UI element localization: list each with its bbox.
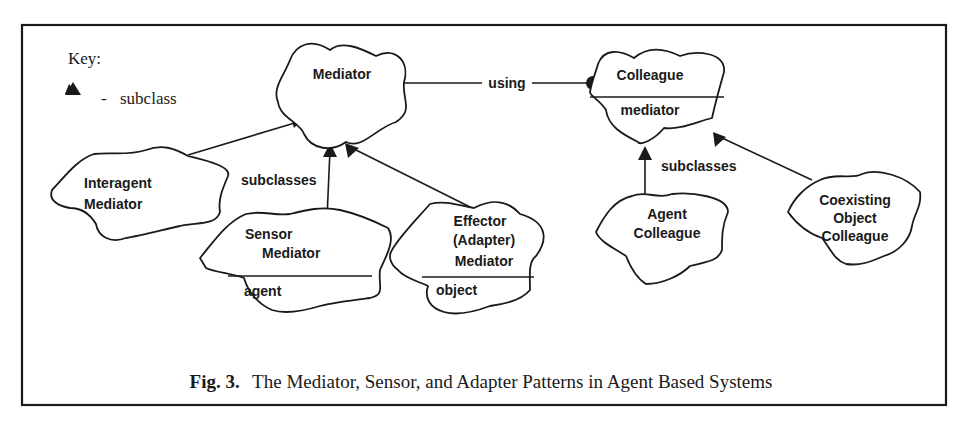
legend: Key: - subclass xyxy=(65,49,177,108)
legend-dash: - xyxy=(101,89,107,108)
node-coexisting-object-colleague: Coexisting Object Colleague xyxy=(788,172,920,265)
sensor-attribute: agent xyxy=(244,283,282,299)
node-mediator: Mediator xyxy=(276,44,406,148)
interagent-label-line2: Mediator xyxy=(84,196,143,212)
agent-colleague-line1: Agent xyxy=(647,206,687,222)
node-sensor-mediator: Sensor Mediator agent xyxy=(200,208,391,312)
node-effector-mediator: Effector (Adapter) Mediator object xyxy=(390,202,544,314)
subclass-arrowhead-icon xyxy=(638,146,652,160)
interagent-to-mediator-edge xyxy=(188,122,298,155)
node-interagent-mediator: Interagent Mediator xyxy=(51,147,228,240)
colleague-subclasses-label: subclasses xyxy=(661,158,737,174)
node-colleague: Colleague mediator xyxy=(590,50,724,144)
sensor-label-line2: Mediator xyxy=(262,245,321,261)
interagent-label-line1: Interagent xyxy=(84,175,152,191)
legend-meaning: subclass xyxy=(120,89,177,108)
colleague-label: Colleague xyxy=(617,67,684,83)
caption-text: The Mediator, Sensor, and Adapter Patter… xyxy=(252,371,772,392)
effector-label-line1: Effector xyxy=(454,213,507,229)
caption-label: Fig. 3. xyxy=(190,371,240,392)
coexisting-line3: Colleague xyxy=(822,228,889,244)
diagram-canvas: Key: - subclass Mediator Coll xyxy=(0,0,962,428)
coexisting-line2: Object xyxy=(833,210,877,226)
mediator-subclasses-label: subclasses xyxy=(241,172,317,188)
legend-title: Key: xyxy=(68,49,101,68)
agent-colleague-line2: Colleague xyxy=(634,225,701,241)
effector-to-mediator-edge xyxy=(352,148,472,208)
node-agent-colleague: Agent Colleague xyxy=(596,194,728,284)
effector-label-line3: Mediator xyxy=(455,253,514,269)
coexisting-line1: Coexisting xyxy=(819,192,891,208)
figure-caption: Fig. 3. The Mediator, Sensor, and Adapte… xyxy=(190,371,773,392)
mediator-label: Mediator xyxy=(313,66,372,82)
effector-label-line2: (Adapter) xyxy=(453,232,515,248)
using-label: using xyxy=(488,75,525,91)
colleague-attribute: mediator xyxy=(620,102,680,118)
sensor-label-line1: Sensor xyxy=(245,226,293,242)
effector-attribute: object xyxy=(436,282,478,298)
